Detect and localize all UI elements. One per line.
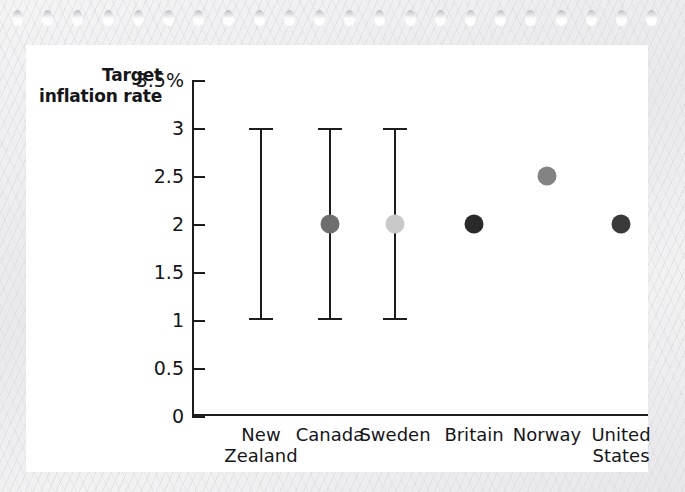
range-cap-low: [249, 318, 273, 320]
range-cap-high: [383, 128, 407, 130]
target-dot: [538, 167, 557, 186]
y-axis-tick-mark: [192, 176, 205, 178]
punch-hole: [435, 10, 446, 25]
punch-hole: [42, 10, 53, 25]
plot-area: 3.5%32.521.510.50 New ZealandCanadaSwede…: [192, 80, 648, 416]
x-axis-line: [192, 414, 648, 416]
range-cap-high: [318, 128, 342, 130]
range-cap-low: [318, 318, 342, 320]
notebook-page: Target inflation rate 3.5%32.521.510.50 …: [0, 0, 685, 492]
y-axis-tick: 0.5: [192, 368, 205, 370]
punch-hole-strip: [0, 10, 685, 32]
y-axis-tick-mark: [192, 80, 205, 82]
y-axis-tick-label: 1.5: [154, 263, 184, 282]
punch-hole: [344, 10, 355, 25]
y-axis-tick-mark: [192, 128, 205, 130]
punch-hole: [374, 10, 385, 25]
category-label: Canada: [296, 424, 365, 445]
punch-hole: [556, 10, 567, 25]
punch-hole: [193, 10, 204, 25]
y-axis-tick-label: 2.5: [154, 167, 184, 186]
punch-hole: [405, 10, 416, 25]
y-axis-tick-label: 0: [172, 407, 184, 426]
y-axis-tick-mark: [192, 272, 205, 274]
target-dot: [465, 215, 484, 234]
category-label: Sweden: [359, 424, 430, 445]
y-axis-tick: 3.5%: [192, 80, 205, 82]
y-axis-tick: 1: [192, 320, 205, 322]
y-axis-tick-label: 3: [172, 119, 184, 138]
y-axis-tick-mark: [192, 320, 205, 322]
y-axis-tick-label: 0.5: [154, 359, 184, 378]
y-axis-tick-label: 1: [172, 311, 184, 330]
punch-hole: [465, 10, 476, 25]
punch-hole: [103, 10, 114, 25]
punch-hole: [254, 10, 265, 25]
y-axis-tick: 2: [192, 224, 205, 226]
target-dot: [612, 215, 631, 234]
target-dot: [386, 215, 405, 234]
y-axis-tick-label: 3.5%: [136, 71, 184, 90]
category-label: Britain: [444, 424, 503, 445]
range-cap-high: [249, 128, 273, 130]
y-axis-line: [192, 80, 194, 416]
range-bar: [260, 128, 262, 320]
punch-hole: [223, 10, 234, 25]
y-axis-tick: 1.5: [192, 272, 205, 274]
punch-hole: [616, 10, 627, 25]
category-label: Norway: [513, 424, 581, 445]
y-axis-tick-mark: [192, 416, 205, 418]
category-label: United States: [591, 424, 650, 466]
punch-hole: [314, 10, 325, 25]
y-axis-tick: 2.5: [192, 176, 205, 178]
range-cap-low: [383, 318, 407, 320]
punch-hole: [284, 10, 295, 25]
y-axis-tick-mark: [192, 224, 205, 226]
punch-hole: [586, 10, 597, 25]
punch-hole: [646, 10, 657, 25]
punch-hole: [72, 10, 83, 25]
punch-hole: [12, 10, 23, 25]
y-axis-tick: 3: [192, 128, 205, 130]
y-axis-tick-mark: [192, 368, 205, 370]
punch-hole: [525, 10, 536, 25]
chart-card: Target inflation rate 3.5%32.521.510.50 …: [26, 45, 648, 472]
y-axis-tick: 0: [192, 416, 205, 418]
punch-hole: [133, 10, 144, 25]
punch-hole: [495, 10, 506, 25]
punch-hole: [163, 10, 174, 25]
y-axis-tick-label: 2: [172, 215, 184, 234]
target-dot: [321, 215, 340, 234]
category-label: New Zealand: [224, 424, 297, 466]
